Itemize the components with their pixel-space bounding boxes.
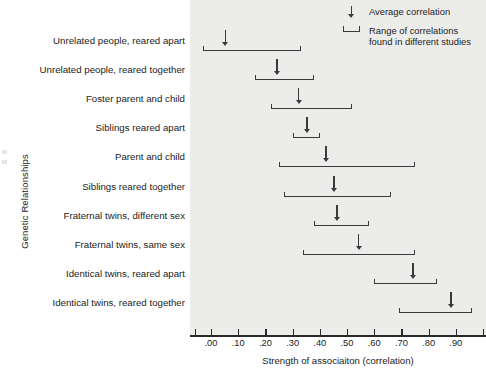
- x-axis-tick: [483, 329, 484, 336]
- average-arrow: [306, 117, 307, 138]
- range-bracket: [203, 46, 301, 51]
- range-bracket: [314, 221, 368, 226]
- average-arrow: [333, 176, 334, 197]
- x-axis-tick-label: .00: [196, 338, 226, 348]
- category-label: Unrelated people, reared together: [33, 64, 185, 75]
- range-bracket-icon: [341, 25, 363, 39]
- average-arrow: [298, 88, 299, 109]
- category-label: Siblings reared apart: [33, 122, 185, 133]
- y-axis-title: Genetic Relationships: [19, 132, 30, 272]
- average-arrow: [325, 146, 326, 167]
- average-arrow: [358, 234, 359, 255]
- average-arrow: [412, 263, 413, 284]
- x-axis-tick: [401, 329, 402, 336]
- range-bracket: [279, 162, 415, 167]
- category-label: Unrelated people, reared apart: [33, 35, 185, 46]
- category-label: Fraternal twins, same sex: [33, 239, 185, 250]
- x-axis-tick-label: .10: [223, 338, 253, 348]
- legend-item-range: Range of correlations found in different…: [341, 25, 483, 48]
- x-axis-tick: [211, 329, 212, 336]
- average-arrow: [225, 30, 226, 51]
- category-label: Identical twins, reared apart: [33, 268, 185, 279]
- range-bracket: [271, 104, 353, 109]
- page-edge-artifact: [2, 160, 7, 164]
- category-label: Siblings reared together: [33, 181, 185, 192]
- x-axis-tick: [456, 329, 457, 336]
- category-label: Foster parent and child: [33, 93, 185, 104]
- x-axis-tick: [374, 329, 375, 336]
- category-label: Parent and child: [33, 151, 185, 162]
- category-label: Fraternal twins, different sex: [33, 210, 185, 221]
- range-bracket: [374, 279, 437, 284]
- x-axis-tick: [347, 329, 348, 336]
- range-bracket: [255, 75, 315, 80]
- x-axis-tick-label: .30: [278, 338, 308, 348]
- x-axis-tick: [265, 329, 266, 336]
- down-arrow-icon: [341, 6, 363, 20]
- x-axis-tick-label: .60: [359, 338, 389, 348]
- page-edge-artifact: [2, 150, 7, 154]
- range-bracket: [284, 192, 390, 197]
- x-axis-tick: [429, 329, 430, 336]
- x-axis-tick: [238, 329, 239, 336]
- x-axis-tick-label: .20: [250, 338, 280, 348]
- legend-item-average: Average correlation: [341, 6, 483, 20]
- average-arrow: [450, 292, 451, 313]
- x-axis-tick-label: .50: [332, 338, 362, 348]
- x-axis-tick-label: .90: [441, 338, 471, 348]
- category-label-list: Unrelated people, reared apartUnrelated …: [30, 0, 185, 336]
- legend-label-average: Average correlation: [369, 6, 483, 17]
- range-bracket: [399, 308, 472, 313]
- x-axis-tick-label: .70: [386, 338, 416, 348]
- correlation-range-chart: Genetic Relationships Unrelated people, …: [0, 0, 486, 382]
- x-axis-tick: [320, 329, 321, 336]
- x-axis-tick-label: .80: [414, 338, 444, 348]
- x-axis-tick: [293, 329, 294, 336]
- average-arrow: [276, 59, 277, 80]
- legend: Average correlation Range of correlation…: [341, 6, 483, 48]
- legend-label-range: Range of correlations found in different…: [369, 25, 483, 48]
- x-axis-title: Strength of associaiton (correlation): [190, 355, 486, 366]
- category-label: Identical twins, reared together: [33, 297, 185, 308]
- x-axis-tick: [195, 329, 196, 336]
- x-axis-line: [190, 335, 486, 337]
- data-marks-layer: [190, 0, 486, 336]
- x-axis-tick-label: .40: [305, 338, 335, 348]
- average-arrow: [336, 205, 337, 226]
- range-bracket: [303, 250, 415, 255]
